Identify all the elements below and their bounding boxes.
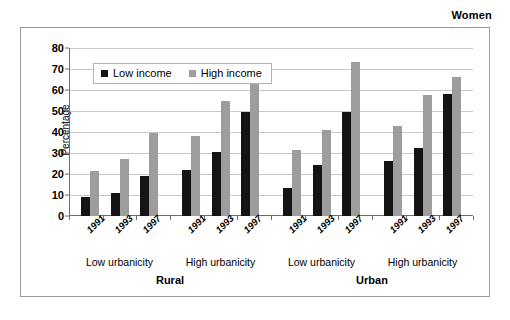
bar-low-income: [182, 170, 191, 216]
legend-label: Low income: [113, 67, 172, 79]
bar-pair: [182, 136, 200, 216]
bar-low-income: [140, 176, 149, 216]
bar-high-income: [149, 133, 158, 216]
legend-label: High income: [201, 67, 262, 79]
year-axis-labels: 1991199319971991199319971991199319971991…: [69, 218, 473, 254]
bar-low-income: [443, 94, 452, 216]
figure-container: Women Percentage 80706050403020100 Low i…: [0, 0, 510, 320]
legend-item: High income: [189, 67, 262, 79]
bar-pair: [212, 101, 230, 217]
bar-low-income: [384, 161, 393, 216]
urbanicity-label: Low urbanicity: [271, 256, 372, 268]
y-axis-tick-label: 30: [52, 147, 64, 159]
year-label: 1997: [443, 213, 482, 252]
x-axis-tick-mark: [473, 216, 474, 220]
urbanicity-axis-labels: Low urbanicityHigh urbanicityLow urbanic…: [69, 256, 473, 268]
year-label-group: 199119931997: [170, 218, 271, 254]
year-label-group: 199119931997: [372, 218, 473, 254]
bar-high-income: [292, 150, 301, 216]
legend-swatch-high-income: [189, 70, 196, 77]
area-label: Rural: [69, 274, 271, 286]
bar-low-income: [111, 193, 120, 216]
y-axis-tick-label: 70: [52, 63, 64, 75]
bar-low-income: [313, 165, 322, 216]
y-axis-tick-label: 50: [52, 105, 64, 117]
bar-pair: [384, 126, 402, 216]
y-axis-tick-label: 40: [52, 126, 64, 138]
bar-pair: [81, 171, 99, 216]
y-axis-tick-label: 0: [58, 210, 64, 222]
bar-pair: [443, 77, 461, 216]
bar-pair: [140, 133, 158, 216]
y-axis-tick-label: 60: [52, 84, 64, 96]
bar-high-income: [90, 171, 99, 216]
bar-low-income: [283, 188, 292, 216]
legend-swatch-low-income: [101, 70, 108, 77]
bar-pair: [283, 150, 301, 216]
y-axis-tick-label: 20: [52, 168, 64, 180]
figure-super-title: Women: [451, 9, 492, 21]
area-label: Urban: [271, 274, 473, 286]
bar-pair: [111, 159, 129, 216]
urbanicity-label: High urbanicity: [372, 256, 473, 268]
bar-high-income: [423, 95, 432, 216]
bar-pair: [241, 69, 259, 216]
area-axis-labels: RuralUrban: [69, 274, 473, 286]
y-axis-tick-label: 80: [52, 42, 64, 54]
bar-high-income: [393, 126, 402, 216]
chart-legend: Low incomeHigh income: [93, 63, 272, 84]
bar-group: [271, 48, 372, 216]
bar-high-income: [452, 77, 461, 216]
bar-high-income: [120, 159, 129, 216]
y-axis-tick-label: 10: [52, 189, 64, 201]
urbanicity-label: High urbanicity: [170, 256, 271, 268]
year-label-group: 199119931997: [271, 218, 372, 254]
bar-pair: [313, 130, 331, 216]
legend-item: Low income: [101, 67, 172, 79]
bar-low-income: [342, 112, 351, 216]
bar-low-income: [81, 197, 90, 216]
bar-low-income: [414, 148, 423, 216]
bar-group: [372, 48, 473, 216]
bar-high-income: [322, 130, 331, 216]
bar-high-income: [351, 62, 360, 216]
urbanicity-label: Low urbanicity: [69, 256, 170, 268]
bar-pair: [414, 95, 432, 216]
year-label-group: 199119931997: [69, 218, 170, 254]
bar-high-income: [221, 101, 230, 217]
chart-frame: Percentage 80706050403020100 Low incomeH…: [20, 27, 490, 297]
bar-low-income: [241, 112, 250, 216]
bar-high-income: [191, 136, 200, 216]
bar-pair: [342, 62, 360, 216]
bar-high-income: [250, 69, 259, 216]
bar-low-income: [212, 152, 221, 216]
